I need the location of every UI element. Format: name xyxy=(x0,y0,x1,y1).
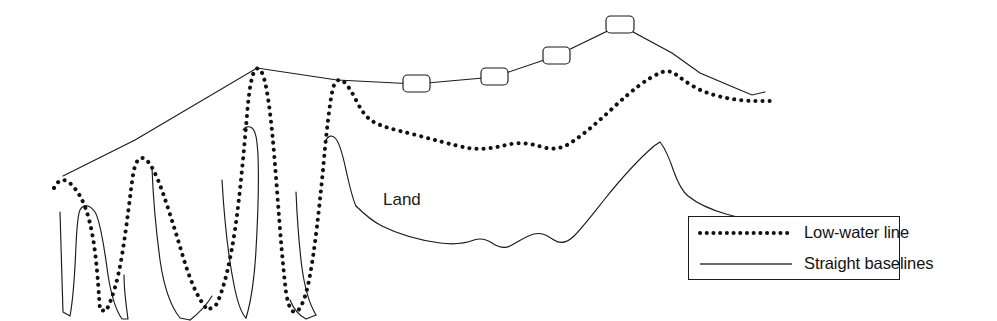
basepoint-box-1 xyxy=(403,75,430,92)
straight-baseline-polyline xyxy=(63,25,765,176)
legend-label-straight-baselines: Straight baselines xyxy=(804,254,933,273)
straight-baselines-group xyxy=(63,25,765,176)
land-label: Land xyxy=(383,190,421,209)
basepoint-boxes-group xyxy=(403,16,634,92)
legend-row-straight-baselines: Straight baselines xyxy=(689,248,899,279)
basepoint-box-3 xyxy=(543,47,570,64)
basepoint-box-2 xyxy=(481,68,508,85)
legend: Low-water line Straight baselines xyxy=(688,216,900,280)
coastline-detail-fjord2 xyxy=(243,127,258,318)
coastline-detail-left xyxy=(60,206,128,319)
coastline-detail-fjord2-east xyxy=(222,180,246,318)
legend-row-low-water: Low-water line xyxy=(689,217,899,248)
coastline-detail-fjord3 xyxy=(326,136,356,206)
coastline-baseline-figure: Land Low-water line Straight baselines xyxy=(0,0,997,321)
basepoint-box-4 xyxy=(606,16,634,33)
coastline-detail-left-mid xyxy=(152,168,190,320)
solid-line-sample xyxy=(698,258,794,270)
dotted-line-sample xyxy=(698,227,794,239)
coastline-detail-group xyxy=(60,127,762,320)
legend-label-low-water: Low-water line xyxy=(804,223,909,242)
